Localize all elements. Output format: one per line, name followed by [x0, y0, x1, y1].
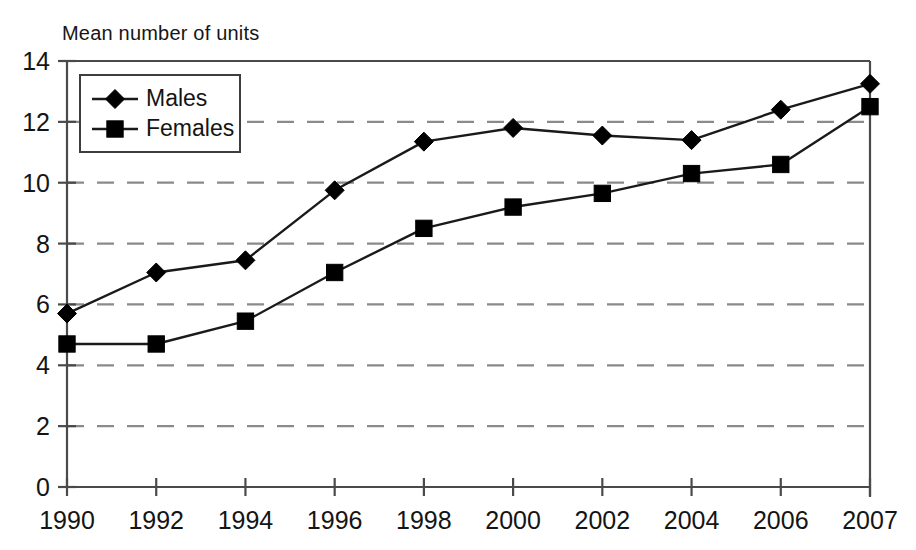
data-point-females	[148, 336, 164, 352]
x-tick-label: 1994	[218, 506, 274, 534]
y-tick-label: 8	[36, 230, 50, 258]
data-point-males	[861, 74, 880, 93]
legend-marker-females	[107, 121, 123, 137]
data-point-females	[594, 185, 610, 201]
data-point-females	[773, 156, 789, 172]
data-point-females	[326, 264, 342, 280]
x-tick-label: 2002	[575, 506, 631, 534]
y-tick-label: 12	[22, 108, 50, 136]
data-point-females	[59, 336, 75, 352]
x-tick-label: 2004	[664, 506, 720, 534]
line-chart-plot: 02468101214 1990199219941996199820002002…	[0, 0, 916, 550]
x-tick-label: 1992	[128, 506, 184, 534]
x-tick-label: 2006	[753, 506, 809, 534]
chart-container: Mean number of units 02468101214 1990199…	[0, 0, 916, 550]
data-point-males	[414, 132, 433, 151]
x-tick-label: 2000	[485, 506, 541, 534]
x-tick-label: 2007	[842, 506, 898, 534]
legend-label-males: Males	[146, 85, 207, 111]
y-tick-label: 6	[36, 290, 50, 318]
chart-legend: MalesFemales	[80, 75, 240, 152]
y-tick-label: 2	[36, 412, 50, 440]
data-point-males	[58, 304, 77, 323]
x-tick-label: 1998	[396, 506, 452, 534]
data-point-females	[683, 165, 699, 181]
x-tick-label: 1990	[39, 506, 95, 534]
y-tick-label: 10	[22, 169, 50, 197]
data-point-males	[682, 131, 701, 150]
data-point-females	[237, 313, 253, 329]
legend-label-females: Females	[146, 115, 234, 141]
y-tick-label: 4	[36, 351, 50, 379]
y-tick-label: 0	[36, 473, 50, 501]
x-tick-label: 1996	[307, 506, 363, 534]
data-point-males	[771, 100, 790, 119]
data-point-females	[862, 98, 878, 114]
data-point-males	[147, 263, 166, 282]
data-point-females	[505, 199, 521, 215]
y-tick-label: 14	[22, 47, 50, 75]
data-point-males	[593, 126, 612, 145]
data-point-females	[416, 220, 432, 236]
